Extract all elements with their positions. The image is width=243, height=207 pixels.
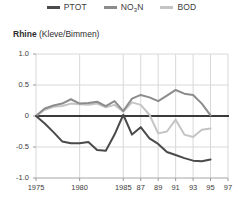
x-tick-label: 95 [206,183,214,192]
x-tick-label: 91 [171,183,179,192]
x-tick-label: 87 [137,183,145,192]
x-tick-label: 1975 [28,183,45,192]
x-tick-label: 93 [189,183,197,192]
y-tick-label: -0.5 [5,142,29,151]
y-tick-label: 1.0 [5,49,29,58]
y-tick-label: 0.5 [5,80,29,89]
plot-area: 1.00.50-0.5-1.0 197519801985878991939597 [0,0,243,207]
x-tick-label: 1980 [71,183,88,192]
plot-svg [0,0,243,207]
y-tick-label: 0 [5,111,29,120]
x-tick-label: 89 [154,183,162,192]
y-tick-label: -1.0 [5,173,29,182]
chart-figure: PTOT NO3N BOD Rhine (Kleve/Bimmen) 1.00.… [0,0,243,207]
x-tick-label: 1985 [115,183,132,192]
x-tick-label: 97 [224,183,232,192]
